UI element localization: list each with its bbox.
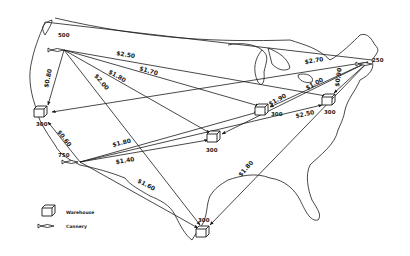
cost-label: $0.80 — [42, 68, 53, 88]
cost-label: $1.80 — [108, 68, 128, 84]
warehouse-icon — [322, 94, 335, 105]
legend-warehouse-label: Warehouse — [66, 210, 94, 215]
cannery-seattle: 500 — [48, 32, 70, 52]
warehouse-demand: 300 — [324, 109, 336, 115]
warehouse-west: 300 — [34, 106, 48, 127]
cost-label: $2.70 — [304, 55, 324, 65]
cannery-capacity: 250 — [372, 57, 384, 63]
cost-label: $0.60 — [56, 128, 73, 147]
warehouse-demand: 300 — [206, 147, 218, 153]
cost-label: $2.50 — [295, 108, 315, 119]
cannery-icon — [38, 224, 54, 228]
cannery-capacity: 500 — [58, 32, 70, 38]
warehouse-central: 300 — [206, 131, 220, 153]
route-northeast-west — [52, 62, 368, 112]
legend: Warehouse Cannery — [38, 205, 94, 229]
route-northeast-central — [222, 62, 368, 134]
warehouse-demand: 300 — [271, 111, 283, 117]
route-california-south — [80, 162, 198, 228]
warehouse-demand: 300 — [36, 121, 48, 127]
warehouse-icon — [207, 131, 220, 142]
warehouse-icon — [42, 205, 55, 216]
cost-label: $2.50 — [116, 49, 136, 59]
cannery-icon — [48, 48, 64, 52]
warehouse-icon — [34, 106, 47, 117]
cost-label: $0.90 — [333, 67, 343, 87]
us-outline — [30, 18, 378, 240]
cannery-capacity: 750 — [58, 152, 70, 158]
warehouse-south: 300 — [196, 217, 210, 237]
shipping-map: 500 750 250 300 300 300 300 300 $2.50 $1… — [0, 0, 410, 256]
warehouse-demand: 300 — [198, 217, 210, 223]
route-northeast-south — [210, 62, 368, 225]
warehouse-icon — [196, 226, 209, 237]
route-california-chicago — [80, 112, 258, 162]
cannery-icon — [356, 62, 372, 66]
route-seattle-south — [64, 50, 200, 225]
route-california-east — [80, 105, 322, 162]
cost-label: $1.40 — [115, 155, 135, 165]
warehouse-icon — [255, 104, 268, 115]
cost-label: $1.80 — [112, 137, 132, 148]
route-seattle-chicago — [64, 50, 259, 106]
cost-label: $1.90 — [267, 92, 287, 107]
route-cost-labels: $2.50 $1.70 $1.80 $2.00 $0.80 $0.60 $1.8… — [42, 49, 343, 192]
legend-cannery-label: Cannery — [66, 224, 87, 229]
cannery-icon — [62, 160, 78, 164]
route-california-central — [80, 140, 208, 162]
